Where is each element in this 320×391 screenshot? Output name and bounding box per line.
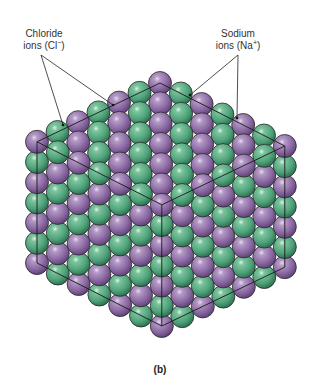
chloride-ion-sphere [46,161,69,184]
chloride-ion-sphere [171,204,194,227]
sodium-ion-sphere [212,144,235,167]
chloride-ion-sphere [253,205,276,228]
chloride-ion-sphere [67,131,90,154]
chloride-ion-sphere [109,253,132,276]
chloride-leader-dot [62,124,65,127]
sodium-ion-sphere [67,172,90,195]
sodium-ion-sphere [232,174,255,197]
sodium-ion-sphere [191,234,214,257]
sodium-ion-sphere [87,121,110,144]
chloride-ion-sphere [130,203,153,226]
sodium-ion-sphere [88,142,111,165]
sodium-ion-sphere [232,255,255,278]
sodium-ion-sphere [170,123,193,146]
chloride-ion-sphere [150,153,173,176]
chloride-leader-line [41,55,113,105]
chloride-ion-sphere [191,214,214,237]
chloride-ion-sphere [149,92,172,115]
chloride-ion-sphere [109,213,132,236]
sodium-ion-sphere [46,181,69,204]
sodium-leader-dot [236,117,239,120]
chloride-ion-sphere [171,244,194,267]
sodium-ion-sphere [109,233,132,256]
chloride-ion-sphere [108,111,131,134]
sodium-ion-sphere [191,194,214,217]
chloride-leader-line [41,55,63,125]
sodium-ion-sphere [170,102,193,125]
chloride-ion-sphere [212,265,235,288]
sodium-leader-line [190,55,238,95]
sodium-label-line1: Sodium [208,28,268,40]
sodium-ion-sphere [253,185,276,208]
chloride-ion-sphere [150,173,173,196]
sodium-ions-label: Sodium ions (Na+) [208,28,268,52]
figure-caption: (b) [0,364,320,375]
sodium-ion-sphere [212,245,235,268]
chloride-ion-sphere [88,182,111,205]
chloride-ion-sphere [171,285,194,308]
chloride-ion-sphere [130,284,153,307]
chloride-ion-sphere [212,225,235,248]
chloride-ion-sphere [232,195,255,218]
sodium-ion-sphere [129,142,152,165]
nacl-crystal-lattice [0,0,320,391]
chloride-ion-sphere [191,255,214,278]
sodium-ion-sphere [191,275,214,298]
sodium-ion-sphere [211,123,234,146]
sodium-ion-sphere [171,163,194,186]
sodium-ion-sphere [67,212,90,235]
sodium-ion-sphere [129,122,152,145]
chloride-ion-sphere [232,235,255,258]
sodium-ion-sphere [67,252,90,275]
sodium-ion-sphere [46,222,69,245]
chloride-ion-sphere [130,243,153,266]
sodium-ion-sphere [88,202,111,225]
sodium-ion-sphere [128,102,151,125]
chloride-ion-sphere [46,201,69,224]
chloride-ion-sphere [253,165,276,188]
chloride-ion-sphere [88,263,111,286]
sodium-ion-sphere [171,264,194,287]
chloride-ion-sphere [253,245,276,268]
sodium-leader-line [237,55,238,118]
sodium-ion-sphere [253,225,276,248]
chloride-ion-sphere [88,222,111,245]
sodium-ion-sphere [232,215,255,238]
sodium-label-line2: ions (Na+) [208,40,268,52]
chloride-ion-sphere [67,232,90,255]
sodium-ion-sphere [170,143,193,166]
sodium-leader-dot [189,94,192,97]
chloride-label-line1: Chloride [14,28,74,40]
chloride-ion-sphere [212,184,235,207]
sodium-ion-sphere [171,224,194,247]
chloride-ion-sphere [67,192,90,215]
chloride-ions-label: Chloride ions (Cl−) [14,28,74,52]
chloride-ion-sphere [191,133,214,156]
chloride-ion-sphere [108,132,131,155]
sodium-ion-sphere [130,264,153,287]
chloride-ion-sphere [108,152,131,175]
sodium-ion-sphere [129,163,152,186]
sodium-ion-sphere [109,273,132,296]
chloride-ion-sphere [190,113,213,136]
chloride-ion-sphere [191,153,214,176]
sodium-ion-sphere [88,243,111,266]
chloride-leader-dot [112,104,115,107]
sodium-ion-sphere [130,223,153,246]
sodium-ion-sphere [109,193,132,216]
chloride-ion-sphere [46,242,69,265]
chloride-ion-sphere [149,132,172,155]
chloride-ion-sphere [149,112,172,135]
chloride-label-line2: ions (Cl−) [14,40,74,52]
sodium-ion-sphere [212,204,235,227]
chloride-ion-sphere [232,134,255,157]
